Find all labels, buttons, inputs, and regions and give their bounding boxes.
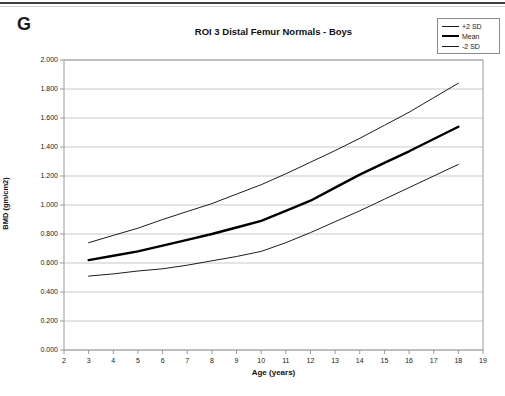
x-tick-label: 17: [424, 357, 444, 365]
x-tick-label: 16: [399, 357, 419, 365]
x-tick-label: 12: [300, 357, 320, 365]
x-tick-label: 6: [153, 357, 173, 365]
x-tick-label: 10: [251, 357, 271, 365]
x-tick-label: 8: [202, 357, 222, 365]
y-tick-label: 0.800: [22, 230, 58, 238]
y-tick-label: 2.000: [22, 56, 58, 64]
x-tick-label: 5: [128, 357, 148, 365]
series-line-minus2sd: [89, 164, 459, 276]
x-tick-label: 7: [177, 357, 197, 365]
y-tick-label: 0.600: [22, 259, 58, 267]
figure-panel: G ROI 3 Distal Femur Normals - Boys +2 S…: [0, 0, 505, 396]
x-tick-label: 11: [276, 357, 296, 365]
x-tick-label: 15: [374, 357, 394, 365]
x-tick-label: 2: [54, 357, 74, 365]
x-tick-label: 13: [325, 357, 345, 365]
y-axis-title: BMD (gm/cm2): [1, 173, 10, 235]
x-tick-label: 3: [79, 357, 99, 365]
x-axis-title: Age (years): [64, 368, 483, 377]
x-tick-label: 4: [103, 357, 123, 365]
x-tick-label: 9: [227, 357, 247, 365]
y-tick-label: 0.400: [22, 288, 58, 296]
plot-area: [0, 0, 505, 396]
x-tick-label: 14: [350, 357, 370, 365]
x-tick-label: 18: [448, 357, 468, 365]
y-tick-label: 0.200: [22, 317, 58, 325]
y-tick-label: 1.600: [22, 114, 58, 122]
y-tick-label: 0.000: [22, 346, 58, 354]
y-tick-label: 1.000: [22, 201, 58, 209]
y-tick-label: 1.800: [22, 85, 58, 93]
series-line-plus2sd: [89, 83, 459, 243]
x-tick-label: 19: [473, 357, 493, 365]
y-tick-label: 1.400: [22, 143, 58, 151]
y-tick-label: 1.200: [22, 172, 58, 180]
